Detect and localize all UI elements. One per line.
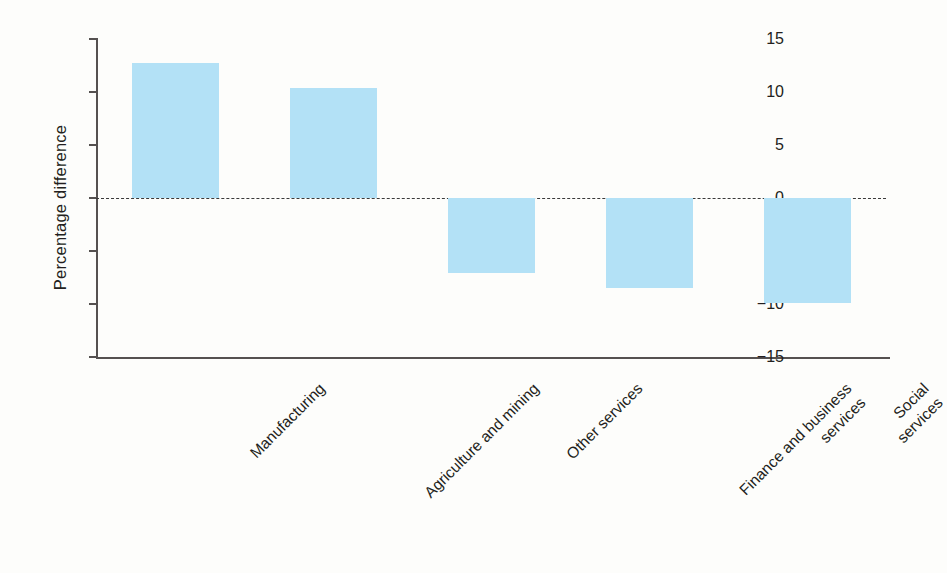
bar bbox=[448, 198, 535, 273]
plot-area: 151050−5−10−15 bbox=[96, 39, 886, 357]
bar bbox=[764, 198, 851, 303]
y-axis-tick-label: 15 bbox=[744, 30, 784, 48]
y-axis-tick-mark bbox=[89, 303, 96, 305]
y-axis-tick-mark bbox=[89, 144, 96, 146]
y-axis-tick-label: −15 bbox=[744, 348, 784, 366]
y-axis-tick-mark bbox=[89, 356, 96, 358]
y-axis-tick-label: 5 bbox=[744, 136, 784, 154]
x-axis-category-label: Agriculture and mining bbox=[420, 379, 544, 503]
x-axis-category-label: Social services bbox=[870, 379, 947, 457]
x-axis-category-label: Other services bbox=[562, 379, 647, 464]
bar bbox=[132, 63, 219, 198]
y-axis-tick-mark bbox=[89, 91, 96, 93]
x-axis-category-label: Manufacturing bbox=[246, 379, 330, 463]
y-axis-tick-mark bbox=[89, 197, 96, 199]
y-axis-tick-label: 10 bbox=[744, 83, 784, 101]
bar bbox=[606, 198, 693, 288]
bar bbox=[290, 88, 377, 198]
y-axis-tick-mark bbox=[89, 38, 96, 40]
y-axis-tick-mark bbox=[89, 250, 96, 252]
x-axis-category-label: Finance and business services bbox=[735, 379, 871, 515]
y-axis-title: Percentage difference bbox=[51, 58, 70, 358]
